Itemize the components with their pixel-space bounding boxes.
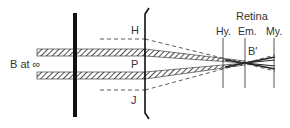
aperture-bar <box>73 13 77 117</box>
retina-label-my: My. <box>266 25 282 37</box>
upper-beam <box>37 49 145 56</box>
optics-diagram: B at ∞ H P J Retina Hy. Em. My. B′ <box>0 0 290 128</box>
retina-title: Retina <box>236 10 269 22</box>
object-label: B at ∞ <box>10 58 40 70</box>
pinhole-label-p: P <box>131 58 138 70</box>
image-label: B′ <box>248 45 257 57</box>
lens <box>145 8 149 119</box>
retina-label-hy: Hy. <box>216 25 231 37</box>
pinhole-label-h: H <box>131 24 139 36</box>
pinhole-label-j: J <box>131 94 137 106</box>
retina-label-em: Em. <box>238 25 257 37</box>
lower-beam <box>37 72 145 79</box>
